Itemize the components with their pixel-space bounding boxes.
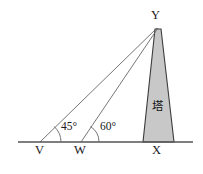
angle-label-60: 60° (100, 121, 116, 133)
vertex-label-w: W (74, 144, 86, 157)
tower-character-label: 塔 (152, 101, 163, 113)
tower-shape (143, 29, 174, 142)
sight-line-from-v (40, 28, 157, 142)
angle-arc-v (54, 127, 61, 143)
vertex-label-x: X (152, 144, 161, 157)
angle-arc-w (91, 127, 100, 142)
geometry-canvas (0, 0, 203, 174)
geometry-figure: Y V W X 45° 60° 塔 (0, 0, 203, 174)
vertex-label-y: Y (151, 9, 160, 22)
vertex-label-v: V (35, 144, 44, 157)
angle-label-45: 45° (61, 121, 77, 133)
